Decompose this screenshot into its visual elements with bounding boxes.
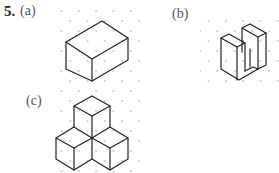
part-b-dot-grid (200, 14, 279, 90)
part-a-figure (56, 10, 140, 92)
part-c-dot-grid (55, 93, 140, 173)
part-c-figure (55, 93, 140, 173)
figures-canvas (0, 0, 279, 173)
part-b-figure (200, 14, 279, 90)
